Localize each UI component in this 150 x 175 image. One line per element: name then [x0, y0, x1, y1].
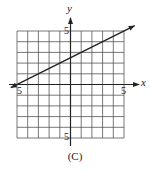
- x-tick-right: 5: [121, 86, 126, 96]
- y-tick-bottom: 5: [64, 132, 69, 142]
- axes: [9, 17, 140, 146]
- x-axis-label: x: [141, 77, 146, 88]
- figure-caption: (C): [0, 150, 150, 162]
- coordinate-plane: [0, 0, 150, 175]
- y-axis-arrow-icon: [68, 17, 73, 24]
- series-line: [11, 26, 135, 88]
- data-line: [11, 26, 135, 88]
- y-axis-label: y: [67, 3, 72, 14]
- x-axis-arrow-icon: [133, 82, 140, 87]
- x-tick-left: 5: [17, 86, 22, 96]
- y-tick-top: 5: [64, 26, 69, 36]
